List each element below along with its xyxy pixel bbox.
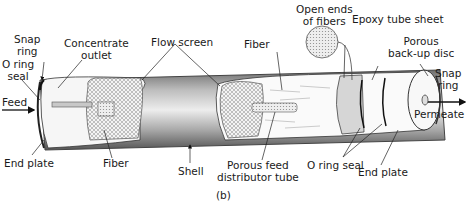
label-open-ends-of-fibers: Open endsof fibers (296, 3, 353, 27)
label-porous-feed-distributor-tube: Porous feeddistributor tube (217, 159, 299, 183)
label-concentrate-outlet: Concentrateoutlet (64, 37, 129, 61)
label-line: back-up disc (388, 47, 454, 59)
concentrate-outlet-tube (52, 102, 92, 107)
label-line: ring (17, 45, 38, 57)
label-line: Concentrate (64, 37, 129, 49)
label-line: Open ends (296, 3, 353, 15)
label-line: outlet (81, 49, 112, 61)
label-line: seal (7, 70, 28, 82)
label-o-ring-seal-left: O ringseal (2, 58, 34, 82)
label-snap-ring-right: Snapring (435, 67, 461, 91)
label-line: Snap (435, 67, 461, 79)
label-fiber-bottom: Fiber (103, 157, 129, 169)
label-permeate: Permeate (414, 108, 464, 120)
label-feed: Feed (2, 96, 27, 108)
label-flow-screen: Flow screen (151, 36, 213, 48)
right-cutaway (216, 70, 440, 140)
label-end-plate-right: End plate (358, 166, 408, 178)
label-fiber-top: Fiber (244, 38, 270, 50)
label-line: Porous (404, 35, 439, 47)
left-cutaway (38, 77, 145, 148)
label-end-plate-left: End plate (4, 157, 54, 169)
label-line: of fibers (303, 15, 346, 27)
label-line: ring (438, 79, 459, 91)
label-line: distributor tube (217, 171, 299, 183)
label-line: Porous feed (227, 159, 289, 171)
label-shell: Shell (178, 165, 204, 177)
label-line: Snap (14, 33, 40, 45)
porous-feed-distributor-tube (252, 103, 297, 112)
label-line: O ring (2, 58, 34, 70)
label-porous-backup-disc: Porousback-up disc (388, 35, 454, 59)
label-epoxy-tube-sheet: Epoxy tube sheet (352, 13, 444, 25)
figure-caption: (b) (216, 189, 231, 201)
label-snap-ring-left: Snapring (14, 33, 40, 57)
label-o-ring-seal-bottom: O ring seal (307, 159, 364, 171)
